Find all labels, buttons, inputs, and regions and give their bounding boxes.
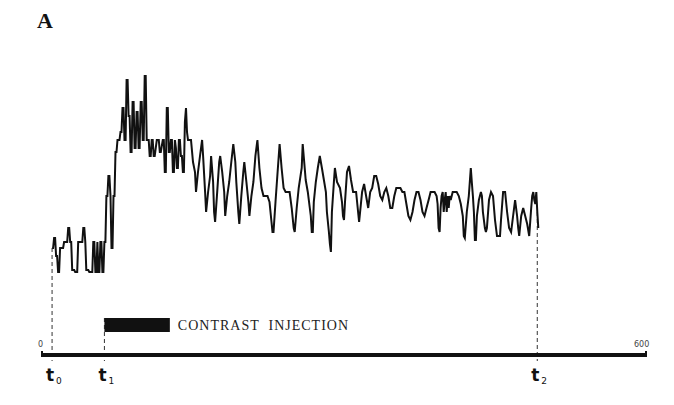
injection-bar [104, 318, 169, 332]
signal-chart: CONTRAST INJECTION 0600 t0t1t2 [0, 0, 674, 405]
marker-subscript-t0: 0 [56, 376, 62, 386]
marker-subscript-t1: 1 [108, 376, 114, 386]
time-marker-labels: t0t1t2 [46, 365, 547, 386]
marker-label-t1: t [98, 365, 106, 385]
marker-label-t0: t [46, 365, 54, 385]
injection-label: CONTRAST INJECTION [178, 318, 349, 333]
tick-label-600: 600 [634, 340, 649, 349]
marker-subscript-t2: 2 [541, 376, 547, 386]
signal-trace [52, 76, 538, 272]
marker-label-t2: t [531, 365, 539, 385]
tick-label-0: 0 [38, 340, 43, 349]
